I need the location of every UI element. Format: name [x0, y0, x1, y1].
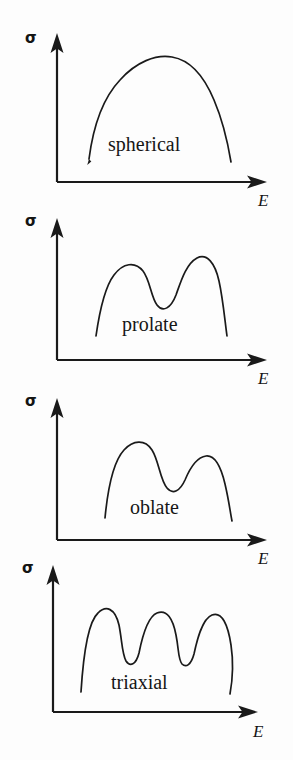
panel-spherical-plot: [0, 0, 293, 210]
x-axis-label-e: E: [253, 723, 263, 740]
y-axis-label-sigma: σ: [22, 561, 34, 576]
x-axis-oblate: [57, 534, 267, 547]
x-axis-spherical: [57, 176, 267, 189]
y-axis-triaxial: [47, 565, 60, 712]
shape-label-triaxial: triaxial: [111, 672, 168, 692]
panel-triaxial-plot: [0, 555, 293, 760]
y-axis-label-sigma: σ: [25, 31, 37, 46]
y-axis-spherical: [51, 33, 64, 182]
x-axis-triaxial: [53, 706, 258, 719]
panel-spherical: σ E spherical: [0, 0, 293, 210]
curve-spherical-endpoint: [87, 159, 91, 165]
panel-prolate-plot: [0, 205, 293, 390]
y-axis-oblate: [51, 398, 64, 540]
x-axis-prolate: [57, 354, 267, 367]
panel-oblate: σ E oblate: [0, 385, 293, 570]
y-axis-prolate: [51, 218, 64, 360]
figure-root: σ E spherical σ E prolate: [0, 0, 293, 760]
panel-prolate: σ E prolate: [0, 205, 293, 390]
y-axis-label-sigma: σ: [25, 214, 37, 229]
shape-label-oblate: oblate: [130, 497, 179, 517]
panel-oblate-plot: [0, 385, 293, 570]
shape-label-spherical: spherical: [108, 134, 180, 154]
panel-triaxial: σ E triaxial: [0, 555, 293, 760]
y-axis-label-sigma: σ: [25, 394, 37, 409]
shape-label-prolate: prolate: [122, 314, 178, 334]
